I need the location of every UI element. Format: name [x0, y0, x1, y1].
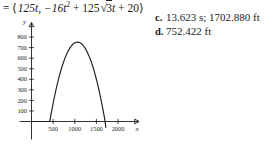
answer-choice-list: c. 13.623 s; 1702.880 ft d. 752.422 ft: [155, 11, 270, 39]
equation-term-y-linear: t: [112, 2, 115, 14]
worksheet-problem-panel: ) = ⟨125t, −16t2 + 125√3t + 20⟩ c. 13.62…: [0, 0, 270, 144]
equation-exponent: 2: [66, 0, 70, 9]
equation-lead: ) =: [0, 2, 9, 14]
y-axis-label: y: [22, 18, 27, 26]
equation-close-bracket: ⟩: [139, 2, 144, 14]
choice-text-d: 752.422 ft: [166, 25, 211, 38]
y-tick-label: 100: [17, 107, 27, 114]
y-tick-label: 500: [17, 65, 27, 72]
equation-constant: 20: [127, 2, 139, 14]
equation-term-x: 125t,: [18, 2, 41, 14]
x-axis-tick-labels: 500100015002000: [48, 125, 124, 132]
answer-choice-c[interactable]: c. 13.623 s; 1702.880 ft: [155, 11, 270, 24]
square-root-icon: √3: [100, 0, 112, 15]
y-tick-label: 400: [17, 75, 27, 82]
y-tick-label: 800: [17, 33, 27, 40]
equation-radicand: 3: [106, 0, 112, 15]
equation-plus-1: +: [73, 2, 80, 14]
y-tick-label: 300: [17, 86, 27, 93]
y-tick-label: 700: [17, 44, 27, 51]
y-tick-label: 200: [17, 97, 27, 104]
chart-canvas: 100200300400500600700800 500100015002000…: [0, 14, 152, 144]
choice-letter-c: c.: [155, 11, 166, 24]
y-axis-tick-labels: 100200300400500600700800: [17, 33, 27, 114]
trajectory-curve: [32, 42, 106, 127]
x-axis-label: x: [134, 125, 139, 133]
equation-coefficient: 125: [82, 2, 99, 14]
projectile-trajectory-chart: 100200300400500600700800 500100015002000…: [0, 14, 152, 144]
x-tick-label: 1500: [90, 125, 103, 132]
x-tick-label: 500: [48, 125, 58, 132]
choice-text-c: 13.623 s; 1702.880 ft: [166, 11, 260, 24]
x-tick-label: 2000: [112, 125, 125, 132]
equation-plus-2: +: [118, 2, 125, 14]
y-tick-label: 600: [17, 54, 27, 61]
answer-choice-d[interactable]: d. 752.422 ft: [155, 25, 270, 38]
x-tick-label: 1000: [68, 125, 81, 132]
equation-term-y-quadratic: −16t: [44, 2, 66, 14]
choice-letter-d: d.: [155, 25, 166, 38]
